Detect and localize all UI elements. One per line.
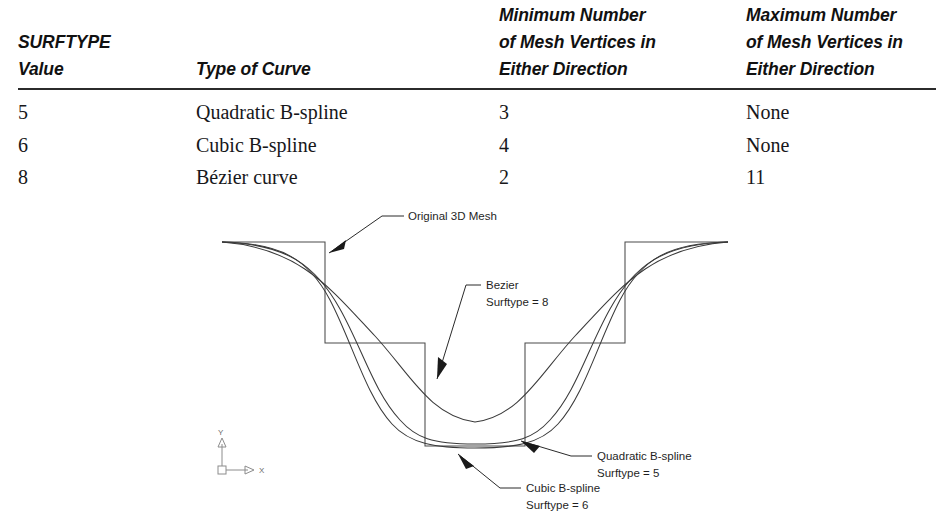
column-header-maximum-vertices: Maximum Number of Mesh Vertices in Eithe… bbox=[746, 2, 936, 89]
cell-minimum-vertices: 4 bbox=[499, 128, 746, 161]
header-line-2: of Mesh Vertices in bbox=[746, 29, 936, 56]
cell-surftype-value: 5 bbox=[18, 89, 196, 128]
annotation-bezier-line1: Bezier bbox=[486, 279, 519, 291]
header-line-3: Either Direction bbox=[499, 56, 746, 83]
cell-surftype-value: 6 bbox=[18, 128, 196, 161]
cell-type-of-curve: Cubic B-spline bbox=[196, 128, 499, 161]
annotation-original-mesh-label: Original 3D Mesh bbox=[408, 210, 497, 222]
column-header-minimum-vertices: Minimum Number of Mesh Vertices in Eithe… bbox=[499, 2, 746, 89]
table-row: 8 Bézier curve 2 11 bbox=[18, 160, 936, 193]
leader-original-mesh bbox=[329, 216, 404, 253]
cell-minimum-vertices: 3 bbox=[499, 89, 746, 128]
leader-bezier bbox=[437, 285, 481, 379]
table-row: 5 Quadratic B-spline 3 None bbox=[18, 89, 936, 128]
leader-arrowhead bbox=[437, 357, 447, 379]
table-header: SURFTYPE Value Type of Curve Minimum Num… bbox=[18, 2, 936, 89]
column-header-type-of-curve: Type of Curve bbox=[196, 2, 499, 89]
bezier-curve bbox=[222, 242, 728, 422]
header-line-2: Value bbox=[18, 56, 196, 83]
header-line-3: Either Direction bbox=[746, 56, 936, 83]
cell-maximum-vertices: None bbox=[746, 128, 936, 161]
annotation-quadratic-line1: Quadratic B-spline bbox=[597, 450, 692, 462]
quadratic-bspline-curve bbox=[222, 242, 728, 444]
leader-line bbox=[458, 454, 521, 488]
leader-arrowhead bbox=[521, 441, 540, 453]
cubic-bspline-curve bbox=[222, 242, 728, 448]
table-body: 5 Quadratic B-spline 3 None 6 Cubic B-sp… bbox=[18, 89, 936, 193]
table-header-row: SURFTYPE Value Type of Curve Minimum Num… bbox=[18, 2, 936, 89]
table-row: 6 Cubic B-spline 4 None bbox=[18, 128, 936, 161]
annotation-bezier-line2: Surftype = 8 bbox=[486, 296, 548, 308]
surftype-table: SURFTYPE Value Type of Curve Minimum Num… bbox=[18, 2, 936, 193]
cell-maximum-vertices: None bbox=[746, 89, 936, 128]
page-root: SURFTYPE Value Type of Curve Minimum Num… bbox=[0, 0, 951, 528]
cell-maximum-vertices: 11 bbox=[746, 160, 936, 193]
header-line-1: Maximum Number bbox=[746, 2, 936, 29]
annotation-cubic-line2: Surftype = 6 bbox=[526, 499, 588, 511]
mesh-diagram: Original 3D Mesh Bezier Surftype = 8 Qua… bbox=[0, 196, 951, 528]
original-mesh-polyline bbox=[222, 242, 728, 446]
header-line-1: SURFTYPE bbox=[18, 29, 196, 56]
leader-quadratic-bspline bbox=[521, 441, 592, 456]
header-line-2: Type of Curve bbox=[196, 56, 499, 83]
ucs-y-label: Y bbox=[218, 428, 224, 437]
ucs-origin-square bbox=[218, 466, 226, 474]
annotation-quadratic-line2: Surftype = 5 bbox=[597, 467, 659, 479]
ucs-x-label: X bbox=[259, 466, 265, 475]
cell-type-of-curve: Bézier curve bbox=[196, 160, 499, 193]
cell-minimum-vertices: 2 bbox=[499, 160, 746, 193]
cell-type-of-curve: Quadratic B-spline bbox=[196, 89, 499, 128]
header-line-2: of Mesh Vertices in bbox=[499, 29, 746, 56]
ucs-icon: Y X bbox=[218, 428, 265, 475]
table: SURFTYPE Value Type of Curve Minimum Num… bbox=[18, 2, 936, 193]
annotation-cubic-line1: Cubic B-spline bbox=[526, 482, 600, 494]
leader-arrowhead bbox=[458, 454, 474, 469]
leader-cubic-bspline bbox=[458, 454, 521, 488]
column-header-surftype-value: SURFTYPE Value bbox=[18, 2, 196, 89]
cell-surftype-value: 8 bbox=[18, 160, 196, 193]
header-line-1: Minimum Number bbox=[499, 2, 746, 29]
